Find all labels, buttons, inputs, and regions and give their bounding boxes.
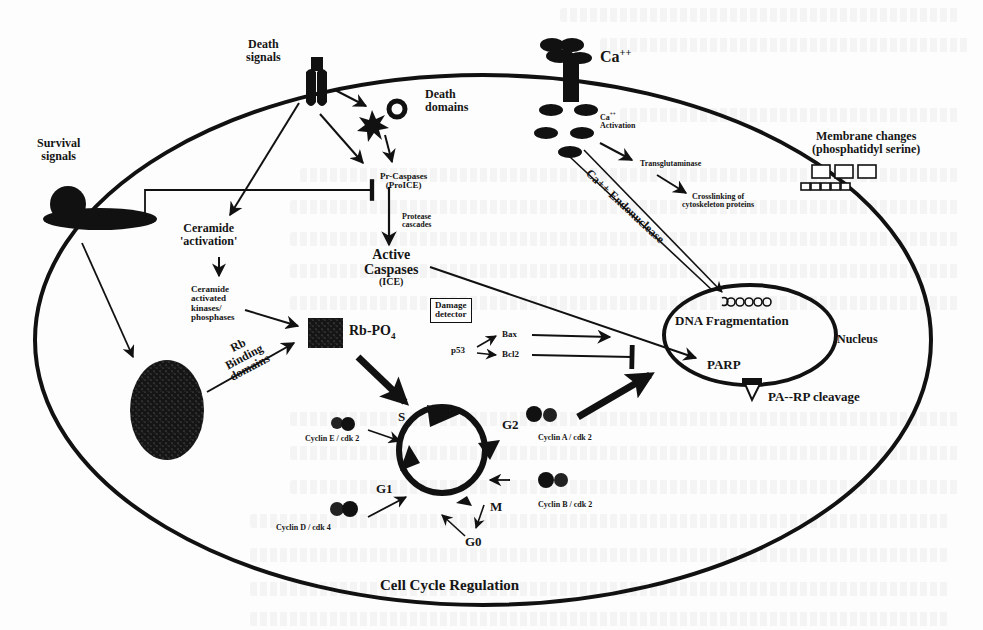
pro-caspases-label: Pr-Caspases (ProICE) (380, 172, 427, 191)
arrow-p53-to-bax (477, 336, 496, 347)
arrow-death-to-ceramide (230, 103, 299, 215)
bax-label: Bax (502, 330, 517, 339)
phosphatidyl-serine-icon (801, 165, 876, 190)
phase-g0-label: G0 (465, 535, 482, 549)
ceramide-activation-label: Ceramide 'activation' (180, 222, 237, 247)
cyclin-d-label: Cyclin D / cdk 4 (276, 524, 331, 532)
p53-label: p53 (451, 346, 465, 355)
crosslinking-label: Crosslinking of cytoskeleton proteins (682, 193, 754, 210)
death-domain-icon (357, 101, 405, 142)
survival-signals-label: Survival signals (37, 137, 80, 162)
damage-detector-box: Damage detector (430, 298, 472, 323)
cyclin-a-label: Cyclin A / cdk 2 (538, 434, 592, 442)
arrow-g0-to-g1 (442, 515, 465, 536)
arrow-kinases-to-rbpo4 (245, 310, 298, 326)
ceramide-kinases-label: Ceramide activated kinases/ phosphases (191, 285, 235, 323)
arrow-m-to-g0 (476, 505, 484, 528)
death-domains-label: Death domains (425, 88, 468, 113)
arrow-deathdomain-to-procaspase (385, 135, 392, 162)
arrow-transglutaminase-to-crosslinking (657, 175, 686, 193)
arrow-cyclinE (368, 430, 400, 441)
inhibit-survival-to-procaspase (145, 190, 372, 218)
arrow-survival-to-rb (82, 243, 133, 357)
active-caspases-label: Active Caspases (ICE) (364, 248, 418, 288)
rb-po4-label: Rb-PO4 (349, 324, 396, 341)
parp-label: PARP (707, 358, 741, 372)
calcium-vesicles-icon (534, 104, 598, 158)
cyclin-d-icon (330, 501, 358, 517)
arrow-cycle-to-nucleus (578, 375, 650, 417)
dna-fragmentation-label: DNA Fragmentation (675, 314, 789, 328)
cyclin-e-label: Cyclin E / cdk 2 (305, 435, 359, 443)
arrow-p53-to-bcl2 (477, 353, 496, 355)
phase-g1-label: G1 (376, 482, 393, 496)
protease-cascades-label: Protease cascades (402, 213, 431, 230)
diagram-canvas: Death signals Survival signals Ca++ Memb… (0, 0, 983, 630)
membrane-changes-label: Membrane changes (phosphatidyl serine) (812, 130, 920, 155)
ca-activation-label: Ca++ Activation (600, 112, 636, 130)
diagram-graphics (0, 0, 983, 630)
phase-g2-label: G2 (502, 418, 519, 432)
survival-receptor-icon (43, 186, 157, 230)
arrow-rbpo4-to-cycle (358, 357, 405, 402)
rb-po4-icon (308, 318, 343, 348)
death-receptor-icon (306, 57, 327, 106)
parp-cleavage-icon (742, 378, 762, 400)
cell-membrane (35, 75, 931, 605)
rb-protein-icon (130, 360, 204, 460)
phase-m-label: M (490, 500, 502, 514)
arrow-cyclinD (368, 497, 406, 517)
calcium-channel-icon (540, 38, 592, 102)
cyclin-e-icon (331, 417, 355, 431)
diagram-title: Cell Cycle Regulation (380, 578, 519, 594)
cyclin-b-label: Cyclin B / cdk 2 (538, 501, 592, 509)
arrow-death-to-deathdomain (335, 90, 366, 106)
nucleus-envelope (664, 285, 836, 385)
cyclin-b-icon (538, 472, 568, 488)
nucleus-label: Nucleus (837, 333, 878, 346)
arrow-ca-to-transglutaminase (600, 143, 632, 160)
arrow-death-to-procaspase (320, 114, 363, 163)
dna-coil-icon (722, 298, 771, 306)
arrow-bax-forward (532, 335, 610, 337)
inhibit-bcl2 (532, 355, 632, 357)
cyclin-a-icon (526, 406, 557, 422)
endonuclease-line-b (584, 150, 722, 292)
cell-cycle-ring-icon (399, 405, 500, 506)
calcium-label: Ca++ (600, 48, 631, 66)
death-signals-label: Death signals (246, 38, 281, 63)
phase-s-label: S (398, 410, 405, 424)
bcl2-label: Bcl2 (502, 350, 519, 359)
transglutaminase-label: Transglutaminase (640, 160, 701, 168)
parp-cleavage-label: PA--RP cleavage (768, 390, 860, 404)
